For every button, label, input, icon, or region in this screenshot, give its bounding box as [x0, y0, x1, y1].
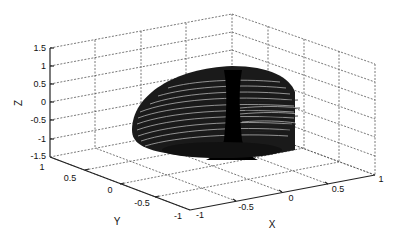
y-tick: 1	[39, 162, 44, 172]
z-tick: 1	[41, 61, 46, 71]
x-tick-labels: -1 -0.5 0 0.5 1	[196, 174, 384, 220]
y-tick: 0	[107, 185, 112, 195]
z-tick: -1.5	[30, 151, 46, 161]
y-tick: 0.5	[64, 173, 77, 183]
x-axis-label: X	[269, 219, 276, 230]
y-tick-labels: 1 0.5 0 -0.5 -1	[39, 162, 182, 221]
z-tick: 1.5	[33, 43, 46, 53]
3d-plot: 1.5 1 0.5 0 -0.5 -1 -1.5 Z 1 0.5 0 -0.5 …	[0, 0, 398, 241]
z-tick-labels: 1.5 1 0.5 0 -0.5 -1 -1.5	[30, 43, 46, 161]
y-tick: -0.5	[134, 198, 150, 208]
x-tick: 0	[288, 193, 293, 203]
x-tick: 1	[378, 174, 383, 184]
y-tick: -1	[174, 211, 182, 221]
z-axis-label: Z	[13, 100, 24, 106]
x-tick: -1	[196, 210, 204, 220]
y-axis-label: Y	[114, 216, 121, 227]
z-tick: 0.5	[33, 79, 46, 89]
z-tick: 0	[41, 97, 46, 107]
trajectory-dome	[132, 66, 300, 160]
z-tick: -1	[38, 134, 46, 144]
x-tick: 0.5	[332, 184, 345, 194]
x-tick: -0.5	[238, 202, 254, 212]
z-tick: -0.5	[30, 115, 46, 125]
